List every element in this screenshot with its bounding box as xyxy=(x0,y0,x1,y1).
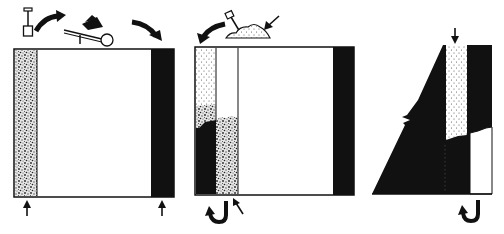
overburden-fill xyxy=(196,120,216,194)
up-arrow-icon xyxy=(158,200,166,216)
ground-block xyxy=(14,49,174,197)
stage-1-panel xyxy=(14,8,174,216)
stage-2-panel xyxy=(195,11,354,222)
down-arrow-icon xyxy=(451,28,459,44)
curved-arrow-icon xyxy=(36,10,66,31)
curved-arrow-icon xyxy=(132,22,162,41)
coal-seam-strip xyxy=(151,49,174,197)
spoil-strip xyxy=(15,50,37,196)
spoil-pile xyxy=(216,116,238,194)
straight-arrow-icon xyxy=(264,16,279,30)
u-turn-arrow-icon xyxy=(205,201,226,222)
topsoil-fill xyxy=(196,48,216,108)
up-arrow-icon xyxy=(23,200,31,216)
diagram-canvas xyxy=(0,0,504,234)
topsoil-column xyxy=(446,45,467,140)
shovel-icon xyxy=(24,8,33,36)
stage-3-panel xyxy=(372,28,492,221)
curved-arrow-icon xyxy=(197,24,225,44)
wheelbarrow-icon xyxy=(64,15,113,46)
open-pit-void xyxy=(470,127,492,194)
coal-seam-strip xyxy=(333,47,354,195)
u-turn-arrow-icon xyxy=(458,200,478,221)
straight-arrow-icon xyxy=(233,198,243,214)
shovel-in-soil-pile-icon xyxy=(225,11,270,38)
